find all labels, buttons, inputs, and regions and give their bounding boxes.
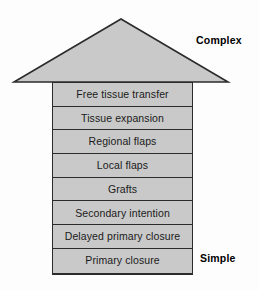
ladder-rung[interactable]: Secondary intention bbox=[53, 201, 192, 225]
complexity-label-bottom: Simple bbox=[200, 252, 236, 264]
ladder-rung-label: Grafts bbox=[108, 184, 137, 195]
ladder-rung-label: Secondary intention bbox=[75, 208, 170, 219]
ladder-rung[interactable]: Tissue expansion bbox=[53, 107, 192, 131]
ladder-rung-label: Primary closure bbox=[85, 255, 159, 266]
ladder-rung[interactable]: Primary closure bbox=[53, 249, 192, 273]
ladder-rung-label: Regional flaps bbox=[89, 136, 157, 147]
ladder-rung-label: Tissue expansion bbox=[81, 113, 164, 124]
ladder-rung[interactable]: Regional flaps bbox=[53, 130, 192, 154]
ladder-stack: Free tissue transfer Tissue expansion Re… bbox=[52, 82, 193, 275]
arrow-head-icon bbox=[0, 12, 259, 87]
ladder-rung-label: Local flaps bbox=[97, 160, 148, 171]
complexity-label-top: Complex bbox=[196, 34, 242, 46]
ladder-rung[interactable]: Local flaps bbox=[53, 154, 192, 178]
ladder-rung-label: Free tissue transfer bbox=[76, 89, 168, 100]
ladder-rung[interactable]: Grafts bbox=[53, 178, 192, 202]
ladder-rung[interactable]: Free tissue transfer bbox=[53, 83, 192, 107]
reconstructive-ladder-figure: Free tissue transfer Tissue expansion Re… bbox=[0, 0, 259, 290]
ladder-rung-label: Delayed primary closure bbox=[65, 231, 181, 242]
ladder-rung[interactable]: Delayed primary closure bbox=[53, 225, 192, 249]
